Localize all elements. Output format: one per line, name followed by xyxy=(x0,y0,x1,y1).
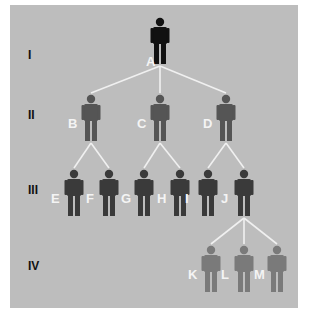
connector-line xyxy=(74,143,91,168)
generation-label: II xyxy=(28,108,35,122)
connector-line xyxy=(211,218,244,244)
person-label: L xyxy=(221,267,229,282)
connector-line xyxy=(160,66,226,93)
person-label: H xyxy=(157,191,166,206)
generation-label: I xyxy=(28,48,31,62)
person-icon-f xyxy=(100,170,119,216)
connector-line xyxy=(208,143,226,168)
person-label: B xyxy=(68,116,77,131)
person-icon-m xyxy=(268,246,287,292)
person-label: G xyxy=(121,191,131,206)
person-label: J xyxy=(221,191,228,206)
connector-line xyxy=(144,143,160,168)
connector-line xyxy=(226,143,244,168)
person-icon-e xyxy=(65,170,84,216)
connector-line xyxy=(91,143,109,168)
person-label: D xyxy=(203,116,212,131)
generation-label: III xyxy=(28,183,38,197)
person-label: I xyxy=(185,191,189,206)
person-label: F xyxy=(86,191,94,206)
person-icon-c xyxy=(151,95,170,141)
person-icon-j xyxy=(235,170,254,216)
person-label: K xyxy=(188,267,197,282)
person-icon-b xyxy=(82,95,101,141)
person-icon-k xyxy=(202,246,221,292)
generation-label: IV xyxy=(28,259,39,273)
person-label: E xyxy=(51,191,60,206)
connector-line xyxy=(160,143,180,168)
person-icon-g xyxy=(135,170,154,216)
person-label: C xyxy=(137,116,146,131)
person-label: A xyxy=(146,54,155,69)
person-icon-i xyxy=(199,170,218,216)
connector-line xyxy=(91,66,160,93)
person-icon-l xyxy=(235,246,254,292)
person-label: M xyxy=(254,267,265,282)
person-icon-d xyxy=(217,95,236,141)
connector-line xyxy=(244,218,277,244)
